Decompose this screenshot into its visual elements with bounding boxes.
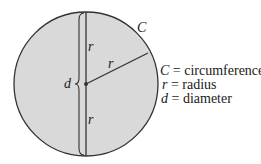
legend-item-diameter: d = diameter [161,91,232,106]
radius-label-bottom: r [88,112,94,127]
center-point [84,82,88,86]
radius-label-diag: r [108,56,114,71]
circle-label: C [137,20,147,35]
legend-item-radius: r = radius [162,77,217,92]
radius-label-top: r [88,39,94,54]
legend: C = circumference r = radius d = diamete… [160,63,261,106]
legend-item-circumference: C = circumference [160,63,261,78]
diameter-label: d [64,76,72,91]
circle-diagram: C r r r d C = circumference r = radius d… [0,0,261,164]
